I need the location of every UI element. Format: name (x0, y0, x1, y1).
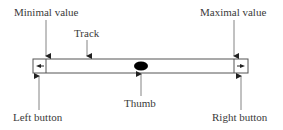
left-button-label: Left button (13, 111, 62, 123)
maximal-value-label: Maximal value (200, 6, 266, 18)
thumb-label: Thumb (124, 97, 156, 109)
track-label: Track (74, 27, 99, 39)
scrollbar (33, 59, 248, 73)
thumb (134, 62, 148, 71)
minimal-value-label: Minimal value (14, 6, 78, 18)
right-button-label: Right button (212, 111, 267, 123)
